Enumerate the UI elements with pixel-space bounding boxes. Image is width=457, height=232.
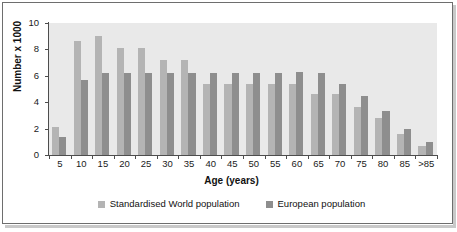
bar [397,134,404,155]
bar [167,73,174,155]
bar [289,84,296,155]
bar [81,80,88,155]
bar [361,96,368,155]
bar [59,137,66,155]
x-axis-tick-label: >85 [405,159,448,169]
bar [354,107,361,155]
x-axis-tick [437,155,438,159]
bar [210,73,217,155]
y-axis-tick-label: 2 [17,124,39,133]
bar [318,73,325,155]
chart-frame: 0246810 51015202530354045505560657075808… [2,2,453,224]
y-axis-tick [45,23,49,24]
bar [268,84,275,155]
y-axis-title: Number x 1000 [12,0,23,117]
bar [224,84,231,155]
bar [117,48,124,155]
bar [52,127,59,155]
bar [382,111,389,155]
y-axis-tick [45,129,49,130]
bar [296,72,303,155]
bar [426,142,433,155]
legend-item-european-population: European population [266,199,366,209]
figure-shadow-bottom [5,225,456,228]
legend-swatch-icon [266,201,273,208]
bar [246,84,253,155]
bar [203,84,210,155]
legend-swatch-icon [98,201,105,208]
bar [232,73,239,155]
y-axis-tick [45,49,49,50]
bar [275,73,282,155]
legend-label: Standardised World population [110,199,240,209]
bar [188,73,195,155]
bar [138,48,145,155]
bar [418,146,425,155]
bar [102,73,109,155]
bar [124,73,131,155]
legend-label: European population [278,199,366,209]
bar [311,94,318,155]
bar [339,84,346,155]
bar [375,118,382,155]
bar [404,129,411,155]
y-axis-tick [45,76,49,77]
bar [332,94,339,155]
bar [160,60,167,155]
bar [181,60,188,155]
chart-legend: Standardised World population European p… [3,199,457,209]
bar [145,73,152,155]
legend-item-standardised-world-population: Standardised World population [98,199,240,209]
y-axis-tick-label: 0 [17,150,39,159]
y-axis-tick [45,102,49,103]
bar [74,41,81,155]
figure-shadow-right [453,5,456,227]
x-axis-title: Age (years) [3,175,457,186]
chart-figure: 0246810 51015202530354045505560657075808… [0,0,457,232]
bar [95,36,102,155]
y-axis-line [48,22,49,156]
bar [253,73,260,155]
